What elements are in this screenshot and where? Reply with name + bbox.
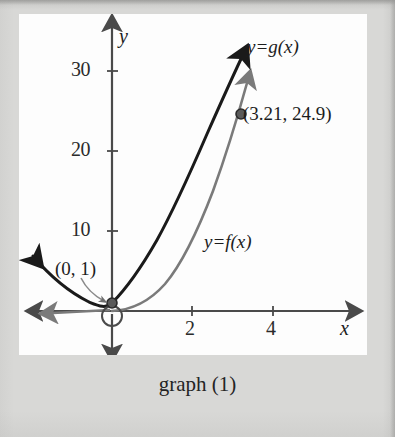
label-intersection-point: (3.21, 24.9) <box>243 103 332 125</box>
x-axis-label: x <box>340 317 349 340</box>
curve-label-f: y=f(x) <box>204 231 252 253</box>
y-tick-label-10: 10 <box>71 218 90 241</box>
y-tick-label-30: 30 <box>71 58 90 81</box>
page-top-shadow <box>0 0 395 5</box>
leader-line-y-intercept <box>81 278 104 301</box>
y-tick-label-20: 20 <box>71 138 90 161</box>
plot-area: 30 20 10 2 4 y x y=g(x) y=f(x) (3.21, 24… <box>19 14 367 355</box>
x-tick-label-2: 2 <box>185 317 195 340</box>
x-tick-label-4: 4 <box>266 317 276 340</box>
y-axis-label: y <box>119 25 128 48</box>
label-y-intercept-point: (0, 1) <box>55 258 96 280</box>
figure-caption: graph (1) <box>0 372 395 397</box>
point-marker-y-intercept <box>107 298 117 308</box>
figure-container: 30 20 10 2 4 y x y=g(x) y=f(x) (3.21, 24… <box>0 0 395 437</box>
curve-label-g: y=g(x) <box>247 36 299 58</box>
